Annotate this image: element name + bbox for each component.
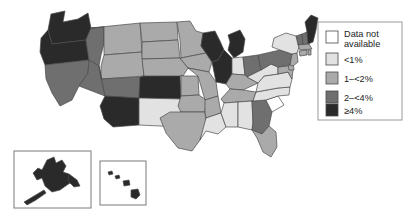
- state-WA: [48, 11, 91, 44]
- legend-label-1: <1%: [344, 55, 363, 65]
- hawaii-inset-frame: [100, 161, 146, 205]
- state-MA: [298, 44, 312, 50]
- state-CO: [139, 75, 181, 99]
- legend-label-0-line1: Data not: [344, 29, 379, 39]
- state-NE: [142, 58, 188, 76]
- state-ND: [140, 22, 178, 42]
- state-TX: [160, 112, 206, 151]
- legend-swatch-2: [326, 72, 338, 84]
- map-states-layer: [40, 11, 318, 157]
- legend-swatch-1: [326, 53, 338, 65]
- state-KS: [181, 75, 199, 96]
- state-SD: [142, 40, 180, 59]
- legend-label-3: 2–<4%: [344, 93, 373, 103]
- state-CT: [299, 50, 307, 56]
- state-WY: [101, 52, 144, 79]
- state-HI-oahu: [115, 175, 120, 179]
- map-legend: Data not available <1% 1–<2% 2–<4% ≥4%: [318, 22, 402, 120]
- legend-label-4: ≥4%: [344, 106, 362, 116]
- legend-label-2: 1–<2%: [344, 74, 373, 84]
- legend-label-0-line2: available: [344, 39, 380, 49]
- state-HI-kauai: [108, 171, 113, 175]
- state-RI: [308, 50, 311, 55]
- legend-swatch-3: [326, 91, 338, 103]
- legend-swatch-4: [326, 104, 338, 116]
- alaska-inset: [14, 151, 91, 208]
- choropleth-map-figure: Data not available <1% 1–<2% 2–<4% ≥4%: [0, 0, 410, 216]
- state-HI-maui: [123, 180, 130, 186]
- state-AZ: [100, 96, 139, 127]
- legend-swatch-0: [326, 31, 338, 43]
- state-MI: [228, 30, 245, 58]
- state-OK: [178, 95, 206, 112]
- state-AL: [238, 101, 253, 130]
- hawaii-inset: [100, 161, 146, 205]
